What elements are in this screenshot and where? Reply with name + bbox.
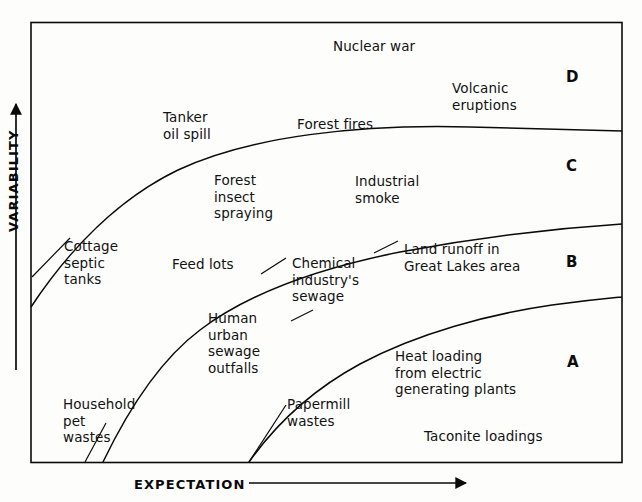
leader-line-land-runoff-great-lakes [374,241,398,253]
label-feed-lots: Feed lots [172,256,234,273]
label-forest-insect-spraying: Forest insect spraying [214,172,273,222]
label-nuclear-war: Nuclear war [333,38,415,55]
zone-label-b: B [566,253,578,271]
leader-line-human-urban-sewage-outfalls [291,310,313,321]
leader-line-chemical-industrys-sewage [261,258,286,274]
label-cottage-septic-tanks: Cottage septic tanks [64,238,118,288]
label-forest-fires: Forest fires [297,116,373,133]
label-chemical-industrys-sewage: Chemical industry's sewage [292,255,359,305]
label-papermill-wastes: Papermill wastes [287,396,350,429]
label-industrial-smoke: Industrial smoke [355,173,419,206]
leader-line-papermill-wastes [249,405,286,462]
label-household-pet-wastes: Household pet wastes [63,396,135,446]
variability-expectation-diagram: VARIABILITY EXPECTATION D C B A Nuclear … [0,0,642,502]
zone-label-c: C [566,157,578,175]
zone-label-d: D [566,68,579,86]
label-tanker-oil-spill: Tanker oil spill [163,109,211,142]
label-land-runoff-great-lakes: Land runoff in Great Lakes area [404,241,520,274]
x-axis-label: EXPECTATION [134,477,246,492]
label-taconite-loadings: Taconite loadings [424,428,543,445]
zone-label-a: A [567,353,579,371]
label-human-urban-sewage-outfalls: Human urban sewage outfalls [208,310,260,376]
label-volcanic-eruptions: Volcanic eruptions [452,80,517,113]
y-axis-label: VARIABILITY [6,130,21,232]
label-heat-loading-electric-plants: Heat loading from electric generating pl… [395,348,516,398]
